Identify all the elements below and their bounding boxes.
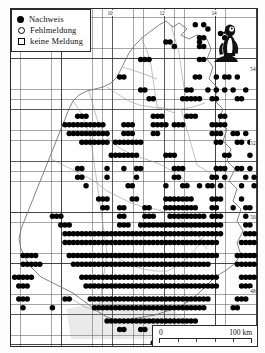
occurrence-dot	[180, 166, 186, 172]
occurrence-dot	[222, 87, 228, 93]
occurrence-dot	[134, 153, 140, 159]
occurrence-dot	[222, 113, 228, 119]
legend-item-fehlmeldung: Fehlmeldung	[17, 25, 83, 36]
occurrence-dot	[146, 205, 152, 211]
occurrence-dot	[218, 183, 224, 189]
occurrence-dot	[188, 196, 194, 202]
legend-label-nachweis: Nachweis	[29, 14, 64, 25]
occurrence-dot	[218, 214, 224, 220]
occurrence-dot	[251, 253, 257, 258]
occurrence-dot	[251, 183, 257, 189]
occurrence-dot	[205, 262, 211, 268]
occurrence-dot	[235, 74, 241, 80]
occurrence-dot	[239, 196, 245, 202]
occurrence-dot	[247, 153, 253, 159]
occurrence-dot	[197, 74, 203, 80]
occurrence-dot	[235, 131, 241, 137]
axis-label-top: 12	[159, 10, 165, 16]
occurrence-dot	[247, 205, 253, 211]
axis-label-right: 54	[250, 66, 256, 72]
occurrence-dot	[130, 122, 136, 128]
occurrence-dot	[193, 113, 199, 119]
scale-start-label: 0	[159, 329, 163, 337]
occurrence-dot	[205, 296, 211, 302]
open-square-icon	[18, 38, 25, 45]
occurrence-dot	[100, 122, 106, 128]
occurrence-dot	[209, 183, 215, 189]
occurrence-dot	[180, 122, 186, 128]
occurrence-dot	[243, 131, 249, 137]
occurrence-dot	[83, 183, 89, 189]
occurrence-dot	[251, 240, 257, 246]
occurrence-dot	[121, 327, 127, 333]
occurrence-dot	[201, 22, 207, 28]
axis-label-right: 52	[250, 140, 256, 146]
occurrence-dot	[24, 283, 30, 289]
occurrence-dot	[138, 166, 144, 172]
occurrence-dot	[214, 74, 220, 80]
occurrence-dot	[104, 131, 110, 137]
occurrence-dot	[104, 205, 110, 211]
occurrence-dot	[239, 166, 245, 172]
scale-bar: 0 100 km	[152, 325, 257, 346]
occurrence-dot	[230, 205, 236, 211]
legend: Nachweis Fehlmeldung keine Meldung	[11, 9, 91, 52]
occurrence-dot	[121, 205, 127, 211]
occurrence-dot	[201, 305, 207, 311]
occurrence-dot	[222, 174, 228, 180]
occurrence-dot	[193, 205, 199, 211]
occurrence-dot	[251, 174, 257, 180]
occurrence-dot	[130, 131, 136, 137]
occurrence-dot	[218, 231, 224, 237]
occurrence-dot	[125, 222, 131, 228]
occurrence-dot	[83, 113, 89, 119]
species-silhouette-icon	[211, 23, 245, 65]
scale-end-label: 100 km	[229, 329, 252, 337]
occurrence-dot	[218, 196, 224, 202]
occurrence-dot	[243, 87, 249, 93]
occurrence-dot	[159, 113, 165, 119]
occurrence-dot	[239, 140, 245, 146]
occurrence-dot	[104, 166, 110, 172]
occurrence-dot	[218, 222, 224, 228]
occurrence-dot	[121, 74, 127, 80]
occurrence-dot	[163, 122, 169, 128]
occurrence-dot	[134, 196, 140, 202]
occurrence-dot	[214, 87, 220, 93]
occurrence-dot	[142, 327, 148, 333]
distribution-map-figure: Nachweis Fehlmeldung keine Meldung	[0, 0, 265, 353]
occurrence-dot	[29, 275, 35, 281]
axis-label-right: 48	[250, 288, 256, 294]
occurrence-dot	[104, 174, 110, 180]
occurrence-dot	[121, 166, 127, 172]
occurrence-dot	[184, 183, 190, 189]
occurrence-dot	[33, 253, 39, 258]
occurrence-dot	[188, 87, 194, 93]
occurrence-dot	[222, 122, 228, 128]
map-frame: Nachweis Fehlmeldung keine Meldung	[10, 8, 258, 347]
occurrence-dot	[214, 174, 220, 180]
legend-label-keine-meldung: keine Meldung	[30, 36, 83, 47]
occurrence-dot	[247, 166, 253, 172]
occurrence-dot	[172, 153, 178, 159]
occurrence-dot	[37, 262, 43, 268]
occurrence-dot	[66, 222, 72, 228]
filled-circle-icon	[17, 16, 24, 23]
occurrence-dot	[201, 214, 207, 220]
occurrence-dot	[79, 166, 85, 172]
occurrence-dot	[214, 253, 220, 258]
occurrence-dot	[146, 57, 152, 63]
axis-label-top: 10	[107, 10, 113, 16]
occurrence-dot	[214, 283, 220, 289]
occurrence-dot	[226, 74, 232, 80]
occurrence-dot	[151, 214, 157, 220]
occurrence-dot	[201, 57, 207, 63]
scale-ruler	[159, 338, 252, 343]
axis-label-top: 14	[211, 10, 217, 16]
occurrence-dot	[226, 153, 232, 159]
occurrence-dot	[251, 262, 257, 268]
legend-label-fehlmeldung: Fehlmeldung	[30, 25, 77, 36]
occurrence-dot	[50, 305, 56, 311]
occurrence-dot	[193, 318, 199, 324]
occurrence-dot	[176, 174, 182, 180]
